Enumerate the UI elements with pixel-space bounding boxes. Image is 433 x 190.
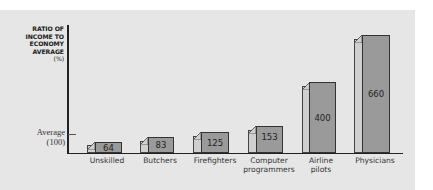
x-label-line: Firefighters <box>187 156 243 165</box>
x-label-line: pilots <box>298 165 344 174</box>
x-label-computer-programmers: Computer programmers <box>238 156 300 174</box>
bar-bevel-icon <box>140 137 148 145</box>
bar-butchers: 83 <box>140 137 174 153</box>
x-label-line: Unskilled <box>82 156 132 165</box>
bar-firefighters: 125 <box>193 132 229 153</box>
average-label-text: Average <box>0 127 65 137</box>
bar-value: 400 <box>309 82 336 153</box>
bar-bevel-icon <box>248 126 256 134</box>
bar-value: 660 <box>362 35 390 153</box>
x-label-line: Physicians <box>347 156 403 165</box>
average-label-value: (100) <box>0 137 65 147</box>
y-axis-title-line: ECONOMY <box>0 40 64 48</box>
bar-unskilled: 64 <box>87 142 122 153</box>
x-label-line: Computer <box>238 156 300 165</box>
x-label-physicians: Physicians <box>347 156 403 165</box>
x-label-line: programmers <box>238 165 300 174</box>
x-label-airline-pilots: Airline pilots <box>298 156 344 174</box>
x-label-unskilled: Unskilled <box>82 156 132 165</box>
bar-bevel-icon <box>87 142 95 150</box>
bar-value: 83 <box>148 137 174 153</box>
bar-value: 153 <box>256 126 283 153</box>
bar-airline-pilots: 400 <box>302 82 336 153</box>
average-tick <box>68 134 76 135</box>
x-label-line: Butchers <box>135 156 185 165</box>
bar-physicians: 660 <box>354 35 390 153</box>
x-label-butchers: Butchers <box>135 156 185 165</box>
bar-computer-programmers: 153 <box>248 126 283 153</box>
bar-bevel-icon <box>354 35 362 43</box>
bar-value: 64 <box>95 142 122 153</box>
y-axis-title: RATIO OF INCOME TO ECONOMY AVERAGE (%) <box>0 25 64 63</box>
x-label-firefighters: Firefighters <box>187 156 243 165</box>
bar-value: 125 <box>201 132 229 153</box>
y-axis-unit: (%) <box>0 55 64 63</box>
y-axis-title-line: INCOME TO <box>0 33 64 41</box>
y-axis-title-line: RATIO OF <box>0 25 64 33</box>
bar-bevel-icon <box>193 132 201 140</box>
y-axis-title-line: AVERAGE <box>0 48 64 56</box>
average-label: Average (100) <box>0 127 65 147</box>
x-label-line: Airline <box>298 156 344 165</box>
